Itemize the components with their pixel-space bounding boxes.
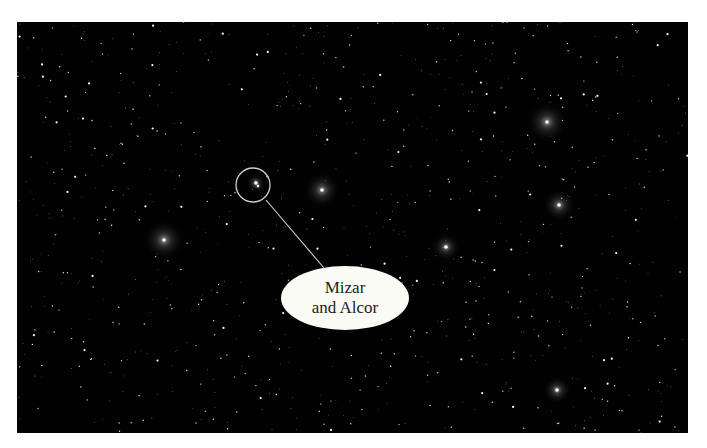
background-stars (17, 22, 688, 433)
star-field-photo (17, 22, 688, 433)
bright-stars (144, 102, 575, 404)
star-bottom-right (555, 388, 559, 392)
star-alkaid (162, 238, 166, 242)
star-merak (557, 203, 561, 207)
star-alcor (257, 185, 259, 187)
callout-label-line1: Mizar (325, 278, 366, 298)
star-dubhe (545, 120, 549, 124)
callout-label-line2: and Alcor (312, 298, 379, 318)
star-megrez (444, 245, 448, 249)
star-field-canvas (17, 22, 688, 433)
callout-label: Mizar and Alcor (281, 266, 409, 330)
star-alioth (320, 188, 324, 192)
pointer-line (266, 200, 324, 268)
